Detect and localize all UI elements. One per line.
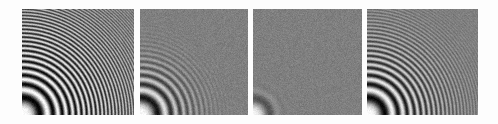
zone-plate-panel (22, 9, 134, 115)
zone-plate-panel (253, 9, 362, 115)
zone-plate-canvas (367, 9, 478, 115)
zone-plate-panel (140, 9, 248, 115)
zone-plate-canvas (22, 9, 134, 115)
figure-panel-strip (0, 0, 498, 124)
zone-plate-canvas (140, 9, 248, 115)
zone-plate-panel (367, 9, 478, 115)
zone-plate-canvas (253, 9, 362, 115)
